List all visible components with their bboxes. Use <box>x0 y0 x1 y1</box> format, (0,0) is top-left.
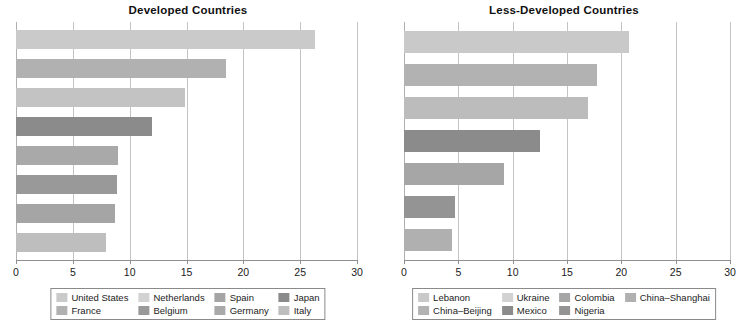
legend-item: France <box>56 305 128 316</box>
x-tick-mark <box>16 260 17 264</box>
bar <box>16 175 117 194</box>
bar <box>16 233 106 252</box>
bar <box>404 97 588 119</box>
legend-label: Nigeria <box>574 305 604 316</box>
legend-label: Lebanon <box>433 292 470 303</box>
x-tick-label: 15 <box>181 266 193 278</box>
legend-swatch-icon <box>625 293 636 302</box>
x-tick-mark <box>730 260 731 264</box>
x-tick-label: 15 <box>561 266 573 278</box>
legend-label: Mexico <box>517 305 547 316</box>
x-tick-mark <box>676 260 677 264</box>
legend-item: Colombia <box>559 292 614 303</box>
legend-label: Netherlands <box>153 292 204 303</box>
x-tick-label: 25 <box>670 266 682 278</box>
legend-item: Spain <box>215 292 269 303</box>
legend-swatch-icon <box>138 293 149 302</box>
legend-wrap-less-developed: LebanonUkraineColombiaChina–ShanghaiChin… <box>376 286 752 326</box>
x-axis-less-developed: 051015202530 <box>376 260 752 286</box>
x-tick-mark <box>357 260 358 264</box>
legend-item: Nigeria <box>559 305 614 316</box>
legend-item: Belgium <box>138 305 204 316</box>
x-tick-label: 5 <box>70 266 76 278</box>
legend-swatch-icon <box>559 293 570 302</box>
bar <box>16 30 315 49</box>
legend-label: United States <box>71 292 128 303</box>
bars-developed <box>0 22 376 260</box>
legend-item: Japan <box>279 292 320 303</box>
bar <box>404 31 629 53</box>
chart-panel-developed: Developed Countries 051015202530 United … <box>0 0 376 326</box>
bar <box>404 130 540 152</box>
x-tick-mark <box>243 260 244 264</box>
legend-swatch-icon <box>138 306 149 315</box>
x-tick-mark <box>73 260 74 264</box>
legend-swatch-icon <box>502 306 513 315</box>
bar <box>404 64 597 86</box>
x-tick-label: 30 <box>351 266 363 278</box>
legend-grid-less-developed: LebanonUkraineColombiaChina–ShanghaiChin… <box>418 292 710 316</box>
legend-label: Italy <box>294 305 311 316</box>
legend-swatch-icon <box>279 293 290 302</box>
x-tick-label: 0 <box>401 266 407 278</box>
x-tick-label: 20 <box>615 266 627 278</box>
legend-swatch-icon <box>215 293 226 302</box>
legend-label: France <box>71 305 101 316</box>
legend-swatch-icon <box>215 306 226 315</box>
legend-wrap-developed: United StatesNetherlandsSpainJapanFrance… <box>0 286 376 326</box>
legend-label: Ukraine <box>517 292 550 303</box>
x-tick-mark <box>404 260 405 264</box>
legend-label: China–Beijing <box>433 305 492 316</box>
bar <box>16 146 118 165</box>
legend-label: Japan <box>294 292 320 303</box>
legend-label: Germany <box>230 305 269 316</box>
bars-less-developed <box>376 22 752 260</box>
legend-item: Ukraine <box>502 292 550 303</box>
legend-swatch-icon <box>418 306 429 315</box>
legend-developed: United StatesNetherlandsSpainJapanFrance… <box>50 288 325 320</box>
x-tick-mark <box>458 260 459 264</box>
legend-item: China–Shanghai <box>625 292 710 303</box>
legend-label: China–Shanghai <box>640 292 710 303</box>
legend-swatch-icon <box>56 306 67 315</box>
x-tick-mark <box>130 260 131 264</box>
x-tick-label: 5 <box>455 266 461 278</box>
legend-item: Lebanon <box>418 292 492 303</box>
legend-item <box>625 305 710 316</box>
legend-swatch-icon <box>559 306 570 315</box>
bar <box>16 88 185 107</box>
legend-label: Spain <box>230 292 254 303</box>
legend-swatch-icon <box>279 306 290 315</box>
plot-area-developed <box>0 22 376 260</box>
x-tick-label: 20 <box>237 266 249 278</box>
legend-item: China–Beijing <box>418 305 492 316</box>
legend-swatch-icon <box>502 293 513 302</box>
bar <box>404 163 504 185</box>
x-tick-mark <box>567 260 568 264</box>
plot-area-less-developed <box>376 22 752 260</box>
legend-item: Netherlands <box>138 292 204 303</box>
chart-panel-less-developed: Less-Developed Countries 051015202530 Le… <box>376 0 752 326</box>
legend-item: Germany <box>215 305 269 316</box>
x-tick-label: 0 <box>13 266 19 278</box>
chart-title-developed: Developed Countries <box>0 0 376 20</box>
bar <box>404 196 455 218</box>
legend-less-developed: LebanonUkraineColombiaChina–ShanghaiChin… <box>412 288 716 320</box>
bar <box>16 59 226 78</box>
bar <box>16 204 115 223</box>
legend-item: Mexico <box>502 305 550 316</box>
bar <box>404 229 452 251</box>
legend-item: United States <box>56 292 128 303</box>
x-tick-label: 30 <box>724 266 736 278</box>
legend-label: Colombia <box>574 292 614 303</box>
bar <box>16 117 152 136</box>
legend-item: Italy <box>279 305 320 316</box>
x-tick-mark <box>513 260 514 264</box>
x-tick-mark <box>621 260 622 264</box>
x-tick-label: 10 <box>124 266 136 278</box>
x-tick-label: 10 <box>507 266 519 278</box>
x-tick-label: 25 <box>294 266 306 278</box>
legend-swatch-icon <box>56 293 67 302</box>
chart-title-less-developed: Less-Developed Countries <box>376 0 752 20</box>
legend-swatch-icon <box>418 293 429 302</box>
